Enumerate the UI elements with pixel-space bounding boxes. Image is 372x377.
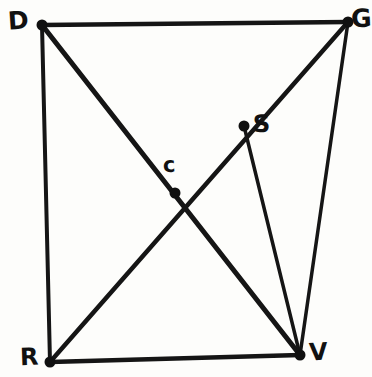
vertex-dot-V (295, 350, 306, 361)
vertex-dot-D (37, 20, 48, 31)
vertex-dot-R (45, 357, 56, 368)
vertex-dot-c (170, 188, 181, 199)
vertex-label-R: R (20, 345, 39, 370)
vertex-label-V: V (308, 340, 328, 365)
edge-DR (42, 25, 50, 362)
vertex-label-c: c (162, 155, 176, 177)
vertex-dot-S (239, 121, 250, 132)
edge-RG (50, 22, 348, 362)
edge-DG (42, 22, 348, 25)
vertex-label-S: S (253, 112, 271, 137)
edge-layer (42, 22, 348, 362)
vertex-label-D: D (7, 7, 29, 33)
edge-RV (50, 355, 300, 362)
vertex-label-G: G (350, 5, 372, 31)
